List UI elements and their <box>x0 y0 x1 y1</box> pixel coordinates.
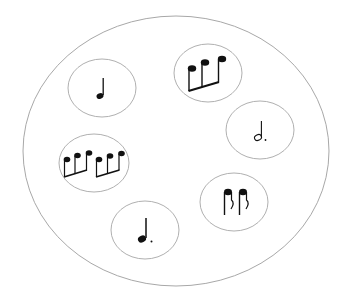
circle-dotted-half-note <box>226 101 294 159</box>
circle-two-eighth-note-triplets <box>59 134 129 192</box>
circle-quarter-note <box>68 59 136 117</box>
dotted-quarter-note-icon <box>137 218 153 244</box>
circle-two-eighth-notes <box>200 173 268 231</box>
rhythm-diagram <box>0 0 342 299</box>
double-triplet-icon <box>64 150 125 177</box>
beamed-triplet-icon <box>188 56 226 91</box>
circle-dotted-quarter-note <box>111 201 179 259</box>
circle-eighth-note-triplet <box>174 44 242 102</box>
two-eighth-notes-icon <box>224 189 248 215</box>
quarter-note-icon <box>96 78 105 100</box>
dotted-half-note-icon <box>254 121 267 142</box>
